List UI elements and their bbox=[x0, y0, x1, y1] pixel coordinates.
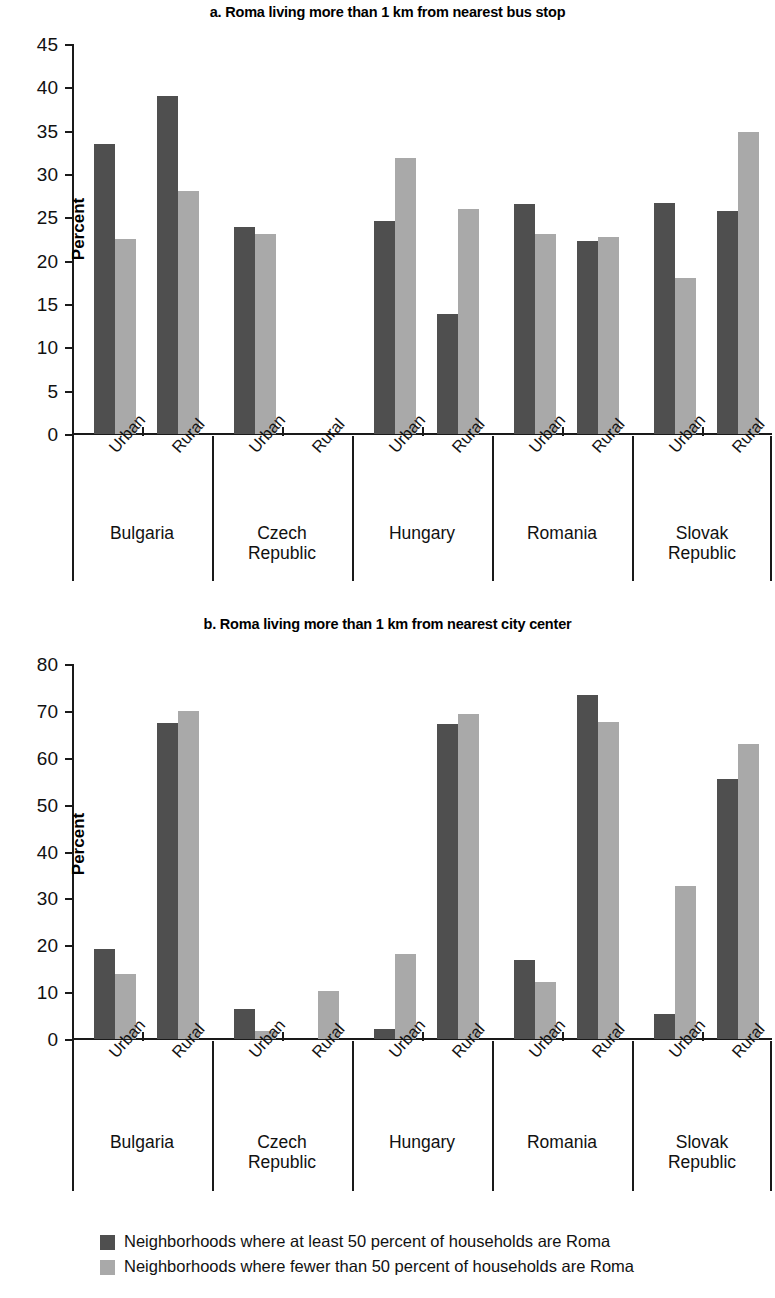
group-separator bbox=[72, 436, 74, 581]
bar bbox=[514, 960, 535, 1039]
bar bbox=[598, 237, 619, 434]
bar bbox=[738, 744, 759, 1039]
bar bbox=[178, 711, 199, 1039]
y-tick-label: 0 bbox=[47, 1030, 58, 1049]
panel-a-plot-area: Percent 051015202530354045 bbox=[72, 44, 772, 434]
figure-root: a. Roma living more than 1 km from neare… bbox=[0, 0, 775, 1298]
panel-a-bars bbox=[74, 44, 772, 434]
y-tick: 10 bbox=[65, 992, 74, 994]
y-tick-label: 40 bbox=[37, 843, 58, 862]
bar bbox=[437, 314, 458, 434]
country-label: Czech Republic bbox=[212, 1133, 352, 1172]
bar bbox=[458, 209, 479, 434]
bar bbox=[255, 234, 276, 434]
bar bbox=[437, 724, 458, 1039]
panel-a-title: a. Roma living more than 1 km from neare… bbox=[0, 4, 775, 20]
group-separator bbox=[72, 1041, 74, 1191]
y-tick: 50 bbox=[65, 805, 74, 807]
bar bbox=[395, 158, 416, 434]
settlement-tick bbox=[422, 1032, 424, 1041]
y-tick-label: 25 bbox=[37, 208, 58, 227]
settlement-tick bbox=[282, 1032, 284, 1041]
y-tick: 15 bbox=[65, 304, 74, 306]
y-tick-label: 70 bbox=[37, 702, 58, 721]
legend-item: Neighborhoods where at least 50 percent … bbox=[100, 1232, 760, 1252]
panel-b-plot-area: Percent 01020304050607080 bbox=[72, 664, 772, 1039]
settlement-tick bbox=[702, 427, 704, 436]
bar bbox=[178, 191, 199, 434]
bar bbox=[94, 949, 115, 1039]
country-label: Romania bbox=[492, 524, 632, 544]
y-tick-label: 50 bbox=[37, 796, 58, 815]
legend-swatch-light-icon bbox=[100, 1260, 115, 1275]
country-label: Bulgaria bbox=[72, 524, 212, 544]
settlement-tick bbox=[702, 1032, 704, 1041]
legend-swatch-dark-icon bbox=[100, 1235, 115, 1250]
settlement-tick bbox=[562, 1032, 564, 1041]
y-tick-label: 10 bbox=[37, 338, 58, 357]
y-tick: 70 bbox=[65, 711, 74, 713]
group-separator bbox=[352, 436, 354, 581]
bar bbox=[717, 211, 738, 434]
settlement-tick bbox=[142, 427, 144, 436]
country-label: Czech Republic bbox=[212, 524, 352, 563]
y-tick: 30 bbox=[65, 898, 74, 900]
settlement-tick bbox=[422, 427, 424, 436]
country-label: Slovak Republic bbox=[632, 524, 772, 563]
panel-a-category-axis: BulgariaUrbanRuralCzech RepublicUrbanRur… bbox=[72, 436, 772, 581]
country-label: Romania bbox=[492, 1133, 632, 1153]
group-separator bbox=[492, 1041, 494, 1191]
y-tick-label: 60 bbox=[37, 749, 58, 768]
group-separator bbox=[352, 1041, 354, 1191]
y-tick-label: 30 bbox=[37, 165, 58, 184]
settlement-tick bbox=[562, 427, 564, 436]
panel-b-bars bbox=[74, 664, 772, 1039]
country-label: Hungary bbox=[352, 524, 492, 544]
country-label: Bulgaria bbox=[72, 1133, 212, 1153]
bar bbox=[717, 779, 738, 1039]
country-label: Hungary bbox=[352, 1133, 492, 1153]
y-tick-label: 30 bbox=[37, 889, 58, 908]
bar bbox=[234, 1009, 255, 1039]
panel-b-category-axis: BulgariaUrbanRuralCzech RepublicUrbanRur… bbox=[72, 1041, 772, 1191]
bar bbox=[94, 144, 115, 434]
y-tick-label: 10 bbox=[37, 983, 58, 1002]
bar bbox=[115, 239, 136, 434]
settlement-tick bbox=[142, 1032, 144, 1041]
legend: Neighborhoods where at least 50 percent … bbox=[100, 1232, 760, 1282]
bar bbox=[675, 886, 696, 1039]
y-tick-label: 20 bbox=[37, 252, 58, 271]
y-tick: 60 bbox=[65, 758, 74, 760]
bar bbox=[598, 722, 619, 1039]
panel-b: b. Roma living more than 1 km from neare… bbox=[0, 606, 775, 1216]
y-tick: 80 bbox=[65, 664, 74, 666]
bar bbox=[577, 241, 598, 434]
bar bbox=[157, 96, 178, 434]
legend-label-dark: Neighborhoods where at least 50 percent … bbox=[124, 1232, 610, 1252]
y-tick-label: 5 bbox=[47, 382, 58, 401]
y-tick: 20 bbox=[65, 261, 74, 263]
settlement-tick bbox=[282, 427, 284, 436]
y-tick: 30 bbox=[65, 174, 74, 176]
y-tick-label: 45 bbox=[37, 35, 58, 54]
y-tick: 40 bbox=[65, 852, 74, 854]
y-tick: 10 bbox=[65, 347, 74, 349]
y-tick: 45 bbox=[65, 44, 74, 46]
bar bbox=[675, 278, 696, 434]
y-tick-label: 80 bbox=[37, 655, 58, 674]
legend-item: Neighborhoods where fewer than 50 percen… bbox=[100, 1257, 760, 1277]
y-tick-label: 35 bbox=[37, 122, 58, 141]
panel-a: a. Roma living more than 1 km from neare… bbox=[0, 0, 775, 600]
y-tick: 35 bbox=[65, 131, 74, 133]
y-tick: 20 bbox=[65, 945, 74, 947]
bar bbox=[374, 221, 395, 434]
panel-b-title: b. Roma living more than 1 km from neare… bbox=[0, 616, 775, 632]
bar bbox=[654, 1014, 675, 1039]
y-tick-label: 20 bbox=[37, 936, 58, 955]
y-tick: 5 bbox=[65, 391, 74, 393]
bar bbox=[157, 723, 178, 1039]
bar bbox=[654, 203, 675, 434]
y-tick-label: 0 bbox=[47, 425, 58, 444]
bar bbox=[577, 695, 598, 1039]
bar bbox=[234, 227, 255, 434]
